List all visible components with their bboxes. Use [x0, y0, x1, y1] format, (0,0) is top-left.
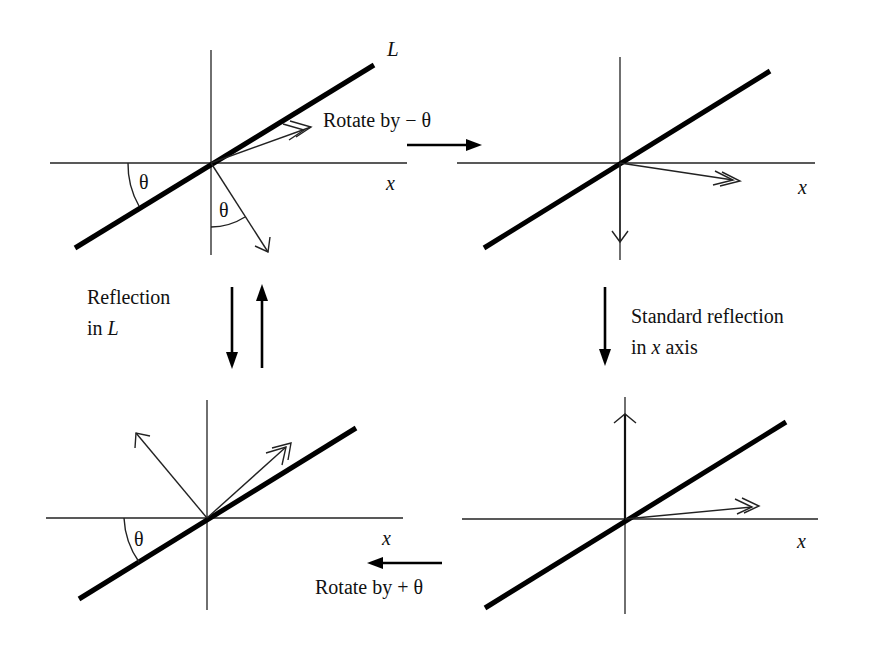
transition-standard-reflection: Standard reflection in x axis — [599, 287, 784, 366]
panel-top-right: x — [457, 57, 815, 260]
rotate-plus-label: Rotate by + θ — [315, 576, 423, 599]
line-L — [484, 71, 770, 248]
reflection-diagram: L x θ θ Rotate by − θ x — [0, 0, 869, 649]
line-L-label: L — [386, 37, 399, 61]
x-axis-label: x — [381, 527, 391, 549]
vector-single-head — [612, 163, 628, 242]
transition-reflection-in-L: Reflection in L — [87, 284, 268, 369]
vector-double-head — [207, 443, 291, 518]
x-axis-label: x — [796, 530, 806, 552]
x-axis-label: x — [385, 172, 395, 194]
reflection-label-line2: in L — [87, 317, 119, 339]
theta-label: θ — [139, 171, 149, 193]
theta-label: θ — [134, 528, 144, 550]
rotate-minus-label: Rotate by − θ — [323, 109, 431, 132]
transition-rotate-minus-theta: Rotate by − θ — [323, 109, 482, 151]
line-L — [79, 428, 356, 599]
reflection-label-line1: Reflection — [87, 286, 170, 308]
panel-top-left: L x θ θ — [50, 37, 407, 255]
panel-bottom-right: x — [462, 397, 818, 614]
standard-reflection-line1: Standard reflection — [631, 305, 784, 327]
vector-double-head — [620, 163, 740, 186]
x-axis-label: x — [797, 176, 807, 198]
angle-arc — [128, 163, 139, 206]
vector-single-head — [135, 433, 207, 518]
vector-single-head — [614, 414, 636, 519]
line-L — [485, 422, 786, 608]
transition-rotate-plus-theta: Rotate by + θ — [315, 557, 442, 599]
theta-label-2: θ — [219, 199, 229, 221]
standard-reflection-line2: in x axis — [631, 336, 698, 358]
